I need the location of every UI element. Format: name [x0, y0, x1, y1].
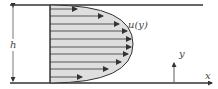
height-label: h — [10, 39, 16, 50]
velocity-label: u(y) — [128, 19, 148, 30]
y-axis-label: y — [178, 48, 185, 59]
velocity-profile — [50, 5, 133, 83]
x-axis-label: x — [205, 70, 211, 81]
flow-diagram: h u(y) y x — [0, 0, 218, 89]
